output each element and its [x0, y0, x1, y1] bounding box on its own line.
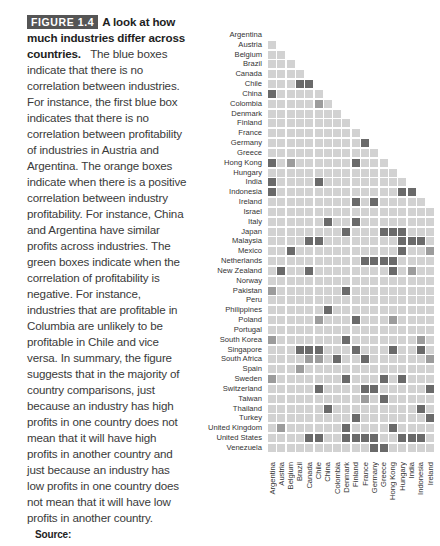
matrix-cell — [352, 129, 360, 137]
matrix-cell — [287, 178, 295, 186]
matrix-cell — [324, 385, 332, 393]
matrix-cell — [324, 110, 332, 118]
matrix-cell — [287, 169, 295, 177]
matrix-cell — [426, 326, 434, 334]
matrix-cell — [287, 247, 295, 255]
matrix-cell — [287, 267, 295, 275]
matrix-cell — [417, 434, 425, 442]
matrix-cell — [277, 395, 285, 403]
matrix-cell — [342, 218, 350, 226]
matrix-cell — [305, 228, 313, 236]
matrix-cell — [324, 306, 332, 314]
matrix-cell — [361, 395, 369, 403]
matrix-cell — [408, 395, 416, 403]
matrix-cell — [324, 208, 332, 216]
matrix-cell — [361, 237, 369, 245]
matrix-cell — [305, 237, 313, 245]
matrix-cell — [408, 336, 416, 344]
matrix-cell — [380, 385, 388, 393]
column-label: India — [407, 462, 416, 478]
matrix-cell — [408, 228, 416, 236]
matrix-cell — [268, 110, 276, 118]
matrix-cell — [370, 257, 378, 265]
matrix-cell — [287, 395, 295, 403]
matrix-cell — [305, 287, 313, 295]
matrix-cell — [426, 375, 434, 383]
matrix-cell — [333, 287, 341, 295]
matrix-cell — [361, 139, 369, 147]
matrix-cell — [352, 237, 360, 245]
row-label: Belgium — [235, 50, 262, 59]
matrix-cell — [287, 326, 295, 334]
matrix-cell — [389, 434, 397, 442]
matrix-cell — [268, 90, 276, 98]
matrix-cell — [389, 414, 397, 422]
matrix-cell — [296, 159, 304, 167]
matrix-cell — [277, 326, 285, 334]
matrix-cell — [389, 395, 397, 403]
matrix-cell — [277, 375, 285, 383]
matrix-cell — [389, 405, 397, 413]
matrix-cell — [352, 228, 360, 236]
matrix-cell — [305, 414, 313, 422]
matrix-cell — [370, 385, 378, 393]
matrix-cell — [287, 346, 295, 354]
matrix-cell — [305, 424, 313, 432]
matrix-cell — [333, 424, 341, 432]
matrix-cell — [342, 119, 350, 127]
matrix-cell — [398, 414, 406, 422]
matrix-cell — [324, 395, 332, 403]
matrix-cell — [315, 100, 323, 108]
matrix-cell — [268, 385, 276, 393]
matrix-cell — [277, 208, 285, 216]
matrix-cell — [408, 267, 416, 275]
matrix-cell — [398, 287, 406, 295]
matrix-cell — [361, 444, 369, 452]
matrix-cell — [315, 159, 323, 167]
matrix-cell — [370, 414, 378, 422]
matrix-cell — [277, 355, 285, 363]
matrix-cell — [342, 346, 350, 354]
matrix-cell — [333, 228, 341, 236]
matrix-cell — [342, 395, 350, 403]
row-label: Hong Kong — [224, 158, 262, 167]
matrix-cell — [352, 267, 360, 275]
matrix-cell — [417, 198, 425, 206]
matrix-cell — [352, 178, 360, 186]
row-label: Brazil — [243, 59, 262, 68]
matrix-cell — [296, 434, 304, 442]
matrix-cell — [417, 267, 425, 275]
matrix-cell — [287, 385, 295, 393]
matrix-cell — [277, 365, 285, 373]
matrix-cell — [315, 277, 323, 285]
matrix-cell — [389, 365, 397, 373]
matrix-cell — [305, 385, 313, 393]
matrix-cell — [296, 365, 304, 373]
matrix-cell — [342, 375, 350, 383]
matrix-cell — [352, 296, 360, 304]
matrix-cell — [333, 198, 341, 206]
row-label: Denmark — [231, 109, 262, 118]
matrix-cell — [333, 405, 341, 413]
matrix-cell — [408, 188, 416, 196]
matrix-cell — [417, 385, 425, 393]
matrix-cell — [380, 346, 388, 354]
matrix-cell — [277, 434, 285, 442]
matrix-cell — [398, 375, 406, 383]
matrix-cell — [361, 178, 369, 186]
matrix-cell — [333, 375, 341, 383]
matrix-cell — [417, 355, 425, 363]
matrix-cell — [324, 287, 332, 295]
matrix-cell — [389, 277, 397, 285]
matrix-cell — [296, 375, 304, 383]
matrix-cell — [389, 424, 397, 432]
matrix-cell — [277, 424, 285, 432]
matrix-cell — [287, 80, 295, 88]
matrix-cell — [342, 208, 350, 216]
matrix-cell — [352, 218, 360, 226]
matrix-cell — [417, 414, 425, 422]
matrix-cell — [315, 336, 323, 344]
matrix-cell — [305, 326, 313, 334]
matrix-cell — [342, 306, 350, 314]
matrix-cell — [277, 237, 285, 245]
